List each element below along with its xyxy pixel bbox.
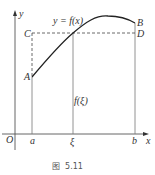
point-label-a: A [23, 71, 31, 82]
mean-value-figure: y x O A B C D a ξ b y = f(x) f(ξ) 图 5.11 [0, 0, 155, 175]
origin-label: O [6, 134, 13, 145]
figure-caption: 图 5.11 [52, 162, 83, 171]
y-axis-arrow-icon [13, 10, 17, 16]
curve-f [32, 16, 135, 77]
y-axis [13, 10, 17, 150]
curve-label: y = f(x) [52, 15, 84, 27]
tick-label-xi: ξ [70, 136, 75, 148]
point-label-b: B [137, 17, 143, 28]
x-axis-label: x [145, 135, 151, 146]
y-axis-label: y [18, 8, 24, 19]
tick-label-a: a [30, 135, 35, 146]
value-label: f(ξ) [74, 95, 88, 107]
point-label-c: C [24, 28, 31, 39]
tick-label-b: b [132, 135, 137, 146]
point-label-d: D [136, 28, 145, 39]
x-axis [2, 132, 149, 136]
